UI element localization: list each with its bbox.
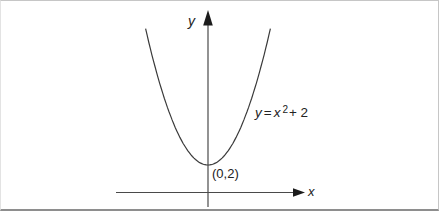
equation-base: x <box>274 105 281 120</box>
x-axis-label: x <box>308 185 315 199</box>
vertex-label: (0,2) <box>212 167 239 181</box>
curve-equation-label: y=x2+ 2 <box>255 106 310 120</box>
equation-lhs: y <box>255 105 262 120</box>
x-axis-arrowhead-icon <box>293 188 305 197</box>
equation-equals: = <box>264 105 272 120</box>
equation-exponent: 2 <box>282 104 288 115</box>
figure-frame: y x y=x2+ 2 (0,2) <box>0 0 439 211</box>
y-axis-arrowhead-icon <box>203 10 213 26</box>
equation-tail: + 2 <box>289 105 308 120</box>
y-axis-label: y <box>188 14 195 28</box>
